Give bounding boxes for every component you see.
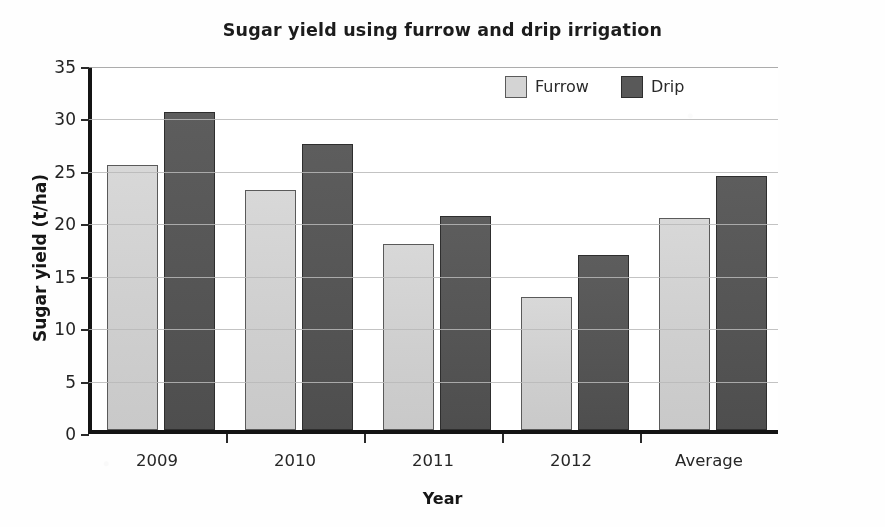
x-axis-tick-label: 2012 (550, 451, 592, 470)
legend-swatch-furrow (505, 76, 527, 98)
x-axis-title: Year (0, 489, 885, 508)
x-axis-tick (640, 434, 642, 443)
bar-furrow-2012 (521, 297, 572, 430)
bar-drip-average (716, 176, 767, 430)
bar-furrow-average (659, 218, 710, 430)
y-axis-tick-label: 10 (54, 319, 76, 339)
legend-swatch-drip (621, 76, 643, 98)
bar-furrow-2009 (107, 165, 158, 430)
x-axis-tick-label: 2010 (274, 451, 316, 470)
x-axis-tick-label: Average (675, 451, 743, 470)
legend-item-furrow: Furrow (505, 76, 589, 98)
y-axis-tick (81, 434, 89, 436)
legend-item-drip: Drip (621, 76, 685, 98)
bar-drip-2012 (578, 255, 629, 430)
chart-legend: FurrowDrip (505, 76, 684, 98)
y-axis-title: Sugar yield (t/ha) (30, 98, 50, 418)
y-axis-tick-label: 30 (54, 109, 76, 129)
x-axis-tick-label: 2011 (412, 451, 454, 470)
y-axis-tick-label: 5 (65, 371, 76, 391)
legend-label-drip: Drip (651, 79, 685, 95)
y-axis-tick-label: 0 (65, 424, 76, 444)
bar-furrow-2011 (383, 244, 434, 430)
x-axis-tick (502, 434, 504, 443)
bar-drip-2009 (164, 112, 215, 430)
bar-drip-2011 (440, 216, 491, 430)
x-axis-tick (226, 434, 228, 443)
x-axis-tick-label: 2009 (136, 451, 178, 470)
y-axis-tick-label: 35 (54, 57, 76, 77)
plot-area (88, 67, 778, 434)
chart-title: Sugar yield using furrow and drip irriga… (0, 20, 885, 41)
y-axis-tick-label: 25 (54, 161, 76, 181)
bar-drip-2010 (302, 144, 353, 430)
legend-label-furrow: Furrow (535, 79, 589, 95)
bar-furrow-2010 (245, 190, 296, 430)
y-axis-tick-label: 15 (54, 266, 76, 286)
x-axis-tick (364, 434, 366, 443)
bar-chart-figure: Sugar yield using furrow and drip irriga… (0, 0, 885, 527)
y-axis-tick-label: 20 (54, 214, 76, 234)
